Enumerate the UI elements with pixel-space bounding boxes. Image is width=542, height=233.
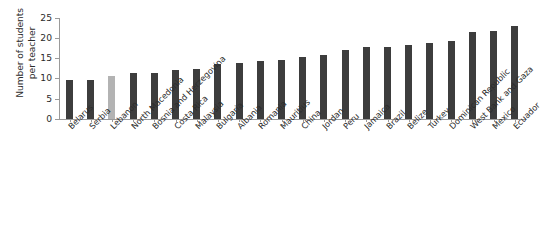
y-axis-tick-label: 15 — [10, 53, 52, 62]
y-axis-tick-label: 25 — [10, 13, 52, 22]
y-axis-tick-label: 10 — [10, 73, 52, 82]
bar — [320, 55, 327, 119]
bar — [66, 80, 73, 119]
y-axis-tick-label: 5 — [10, 94, 52, 103]
bar — [342, 50, 349, 119]
bar — [426, 43, 433, 119]
bar — [448, 41, 455, 119]
bar — [363, 47, 370, 119]
bar — [405, 45, 412, 119]
y-axis-tick-label: 0 — [10, 114, 52, 123]
y-axis-tick-label: 20 — [10, 33, 52, 42]
